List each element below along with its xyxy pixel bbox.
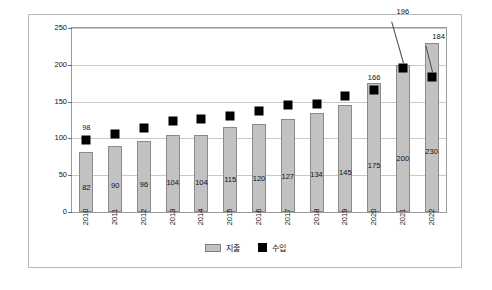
category-slot: 1042014 — [187, 28, 216, 212]
bar — [108, 146, 122, 212]
y-axis-tick-label: 50 — [59, 171, 67, 179]
x-axis-tick-label: 2018 — [313, 209, 321, 226]
income-marker — [82, 135, 91, 144]
x-axis-tick-label: 2016 — [255, 209, 263, 226]
plot-area: 050100150200250 829820109020119620121042… — [71, 27, 447, 213]
legend-item-expenditure: 지출 — [205, 242, 240, 253]
bar-value-label: 96 — [140, 181, 148, 189]
bar-value-label: 127 — [281, 173, 294, 181]
income-marker — [254, 107, 263, 116]
bar — [252, 124, 266, 212]
data-series-layer: 8298201090201196201210420131042014115201… — [72, 28, 446, 212]
x-axis-tick-label: 2015 — [226, 209, 234, 226]
category-slot: 1042013 — [158, 28, 187, 212]
bar — [137, 141, 151, 212]
bar — [338, 105, 352, 212]
chart-legend: 지출 수입 — [29, 242, 461, 253]
income-value-label: 196 — [397, 8, 410, 16]
x-axis-tick-label: 2020 — [370, 209, 378, 226]
bar-value-label: 175 — [368, 162, 381, 170]
bar-value-label: 90 — [111, 182, 119, 190]
category-slot: 2001962021 — [388, 28, 417, 212]
income-marker — [226, 111, 235, 120]
category-slot: 1342018 — [302, 28, 331, 212]
x-axis-tick-label: 2021 — [399, 209, 407, 226]
x-axis-tick-label: 2022 — [428, 209, 436, 226]
y-axis-tick-label: 250 — [54, 24, 67, 32]
income-marker — [312, 99, 321, 108]
bar — [166, 135, 180, 212]
income-marker — [341, 92, 350, 101]
category-slot: 962012 — [130, 28, 159, 212]
bar — [310, 113, 324, 212]
income-marker — [168, 116, 177, 125]
bar-swatch-icon — [205, 244, 221, 252]
category-slot: 1452019 — [331, 28, 360, 212]
x-axis-tick-label: 2010 — [82, 209, 90, 226]
category-slot: 1272017 — [273, 28, 302, 212]
legend-label-expenditure: 지출 — [226, 242, 240, 253]
category-slot: 1152015 — [216, 28, 245, 212]
bar-value-label: 134 — [310, 171, 323, 179]
income-marker — [398, 63, 407, 72]
bar-value-label: 104 — [166, 179, 179, 187]
category-slot: 1202016 — [245, 28, 274, 212]
bar-value-label: 104 — [195, 179, 208, 187]
income-marker — [139, 124, 148, 133]
x-axis-tick-label: 2019 — [341, 209, 349, 226]
bar — [223, 127, 237, 212]
income-marker — [111, 129, 120, 138]
category-slot: 1751662020 — [360, 28, 389, 212]
y-axis-tick-mark — [68, 212, 72, 213]
bar-value-label: 115 — [224, 176, 236, 184]
chart-figure: 050100150200250 829820109020119620121042… — [28, 14, 462, 268]
bar — [396, 65, 410, 212]
bar-value-label: 82 — [82, 184, 90, 192]
x-axis-tick-label: 2014 — [197, 209, 205, 226]
x-axis-tick-label: 2017 — [284, 209, 292, 226]
legend-item-income: 수입 — [258, 242, 286, 253]
category-slot: 82982010 — [72, 28, 101, 212]
bar — [194, 135, 208, 212]
income-marker — [283, 101, 292, 110]
income-marker — [427, 72, 436, 81]
square-swatch-icon — [258, 243, 267, 252]
bar-value-label: 200 — [397, 155, 410, 163]
category-slot: 902011 — [101, 28, 130, 212]
bar-value-label: 145 — [339, 169, 352, 177]
bar-value-label: 230 — [425, 148, 438, 156]
y-axis-tick-label: 200 — [54, 61, 67, 69]
leader-line — [391, 21, 404, 63]
y-axis-tick-label: 100 — [54, 135, 67, 143]
legend-label-income: 수입 — [272, 242, 286, 253]
income-marker — [370, 85, 379, 94]
income-value-label: 166 — [368, 74, 381, 82]
bar — [281, 119, 295, 212]
bar — [367, 83, 381, 212]
income-value-label: 184 — [432, 33, 445, 41]
bar — [79, 152, 93, 212]
x-axis-tick-label: 2013 — [169, 209, 177, 226]
y-axis-tick-label: 150 — [54, 98, 67, 106]
x-axis-tick-label: 2012 — [140, 209, 148, 226]
category-slot: 2301842022 — [417, 28, 446, 212]
income-marker — [197, 114, 206, 123]
bar-value-label: 120 — [253, 175, 266, 183]
income-value-label: 98 — [82, 124, 90, 132]
y-axis-tick-label: 0 — [63, 208, 67, 216]
x-axis-tick-label: 2011 — [111, 209, 119, 225]
